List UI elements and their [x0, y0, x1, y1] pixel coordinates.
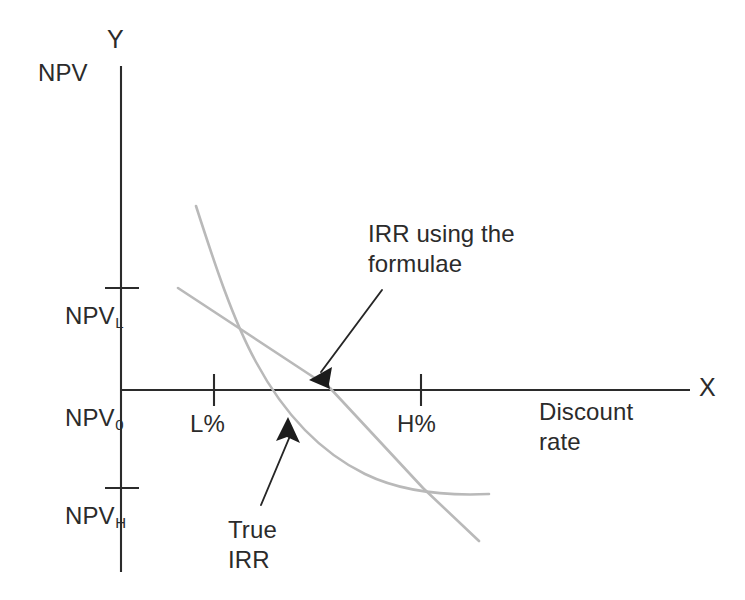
npv-irr-diagram: Y X NPV NPVL NPV0 NPVH L% H% Discount ra… [0, 0, 745, 600]
x-axis-name: X [699, 373, 716, 402]
annotation-irr-formulae-line1: IRR using the [368, 220, 515, 248]
annotation-irr-formulae-line2: formulae [368, 250, 462, 278]
true-irr-leader-line [261, 436, 290, 505]
y-tick-label-npv-l-sub: L [115, 314, 123, 331]
x-tick-label-h-percent: H% [397, 410, 436, 438]
y-tick-label-npv-0: NPV0 [38, 376, 123, 459]
y-tick-label-npv-0-sub: 0 [115, 416, 123, 433]
y-tick-label-npv-l-base: NPV [65, 302, 115, 329]
y-axis-name: Y [107, 25, 124, 54]
y-axis-title: NPV [38, 59, 88, 87]
irr-formulae-leader-line [321, 290, 382, 372]
y-tick-label-npv-h-base: NPV [65, 502, 115, 529]
x-axis-title-line2: rate [539, 428, 581, 456]
y-tick-label-npv-l: NPVL [38, 274, 123, 357]
y-tick-label-npv-h-sub: H [115, 514, 126, 531]
x-tick-label-l-percent: L% [190, 410, 225, 438]
y-tick-label-npv-0-base: NPV [65, 404, 115, 431]
annotation-true-irr-line1: True [228, 516, 277, 544]
x-axis-title-line1: Discount [539, 398, 633, 426]
y-tick-label-npv-h: NPVH [38, 474, 126, 557]
annotation-true-irr-line2: IRR [228, 546, 270, 574]
